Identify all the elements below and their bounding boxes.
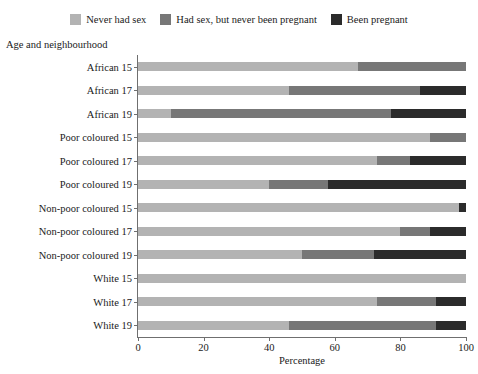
x-axis-tick <box>138 337 139 341</box>
bar-segment <box>289 321 437 330</box>
stacked-bar <box>138 250 466 259</box>
bar-segment <box>138 86 289 95</box>
stacked-bar <box>138 274 466 283</box>
x-axis-tick-label: 100 <box>458 342 474 353</box>
y-axis-tick-label: Non-poor coloured 17 <box>39 226 132 237</box>
legend-label: Had sex, but never been pregnant <box>176 14 317 25</box>
bar-row: Poor coloured 15 <box>138 126 466 150</box>
x-axis-tick <box>400 337 401 341</box>
bar-segment <box>269 180 328 189</box>
bar-segment <box>374 250 466 259</box>
y-axis-tick-label: Non-poor coloured 19 <box>39 249 132 260</box>
legend-label: Been pregnant <box>347 14 408 25</box>
bar-segment <box>377 297 436 306</box>
x-axis-tick <box>335 337 336 341</box>
bar-row: Non-poor coloured 19 <box>138 243 466 267</box>
stacked-bar <box>138 321 466 330</box>
y-axis-tick-label: Poor coloured 15 <box>60 132 132 143</box>
x-axis-tick <box>204 337 205 341</box>
bar-segment <box>138 156 377 165</box>
bar-segment <box>138 297 377 306</box>
bar-segment <box>138 227 400 236</box>
stacked-bar <box>138 297 466 306</box>
legend-item: Never had sex <box>70 14 146 25</box>
stacked-bar <box>138 62 466 71</box>
x-axis-tick <box>269 337 270 341</box>
bar-segment <box>430 133 466 142</box>
x-axis-title: Percentage <box>138 355 466 366</box>
x-axis-tick-label: 60 <box>330 342 341 353</box>
stacked-bar <box>138 133 466 142</box>
bar-segment <box>430 227 466 236</box>
y-axis-tick-label: White 19 <box>93 320 132 331</box>
x-axis-tick-label: 40 <box>264 342 275 353</box>
bar-row: White 15 <box>138 267 466 291</box>
bar-segment <box>138 321 289 330</box>
stacked-bar <box>138 109 466 118</box>
bar-segment <box>410 156 466 165</box>
y-axis-tick-label: Non-poor coloured 15 <box>39 202 132 213</box>
legend-swatch-icon <box>331 14 342 25</box>
bar-segment <box>289 86 420 95</box>
stacked-bar <box>138 156 466 165</box>
bar-segment <box>377 156 410 165</box>
y-axis-tick-label: African 19 <box>87 108 132 119</box>
legend-swatch-icon <box>160 14 171 25</box>
bar-row: African 19 <box>138 102 466 126</box>
bar-segment <box>138 180 269 189</box>
bar-rows: African 15African 17African 19Poor colou… <box>138 55 466 337</box>
bar-segment <box>138 109 171 118</box>
y-axis-tick-label: White 15 <box>93 273 132 284</box>
legend-item: Had sex, but never been pregnant <box>160 14 317 25</box>
bar-segment <box>302 250 374 259</box>
bar-row: White 19 <box>138 314 466 338</box>
bar-segment <box>138 62 358 71</box>
bar-segment <box>328 180 466 189</box>
plot-area: African 15African 17African 19Poor colou… <box>138 55 466 337</box>
y-axis-tick-label: Poor coloured 19 <box>60 179 132 190</box>
bar-segment <box>400 227 430 236</box>
bar-row: African 17 <box>138 79 466 103</box>
y-axis-title: Age and neighbourhood <box>6 39 107 50</box>
chart-legend: Never had sexHad sex, but never been pre… <box>0 14 478 25</box>
x-axis-tick-label: 20 <box>198 342 209 353</box>
x-axis-tick <box>466 337 467 341</box>
bar-segment <box>138 274 466 283</box>
bar-segment <box>459 203 466 212</box>
bar-segment <box>436 321 466 330</box>
bar-row: Non-poor coloured 15 <box>138 196 466 220</box>
y-axis-tick-label: African 17 <box>87 85 132 96</box>
y-axis-tick-label: African 15 <box>87 61 132 72</box>
bar-row: Poor coloured 17 <box>138 149 466 173</box>
bar-row: Poor coloured 19 <box>138 173 466 197</box>
legend-label: Never had sex <box>86 14 146 25</box>
x-axis-tick-label: 80 <box>395 342 406 353</box>
x-axis-tick-label: 0 <box>135 342 140 353</box>
bar-segment <box>138 203 459 212</box>
bar-segment <box>436 297 466 306</box>
stacked-bar-chart: Never had sexHad sex, but never been pre… <box>0 0 478 374</box>
bar-segment <box>420 86 466 95</box>
legend-item: Been pregnant <box>331 14 408 25</box>
bar-segment <box>138 133 430 142</box>
bar-row: Non-poor coloured 17 <box>138 220 466 244</box>
bar-segment <box>138 250 302 259</box>
y-axis-tick-label: Poor coloured 17 <box>60 155 132 166</box>
bar-segment <box>358 62 466 71</box>
stacked-bar <box>138 203 466 212</box>
bar-row: White 17 <box>138 290 466 314</box>
stacked-bar <box>138 86 466 95</box>
bar-row: African 15 <box>138 55 466 79</box>
stacked-bar <box>138 227 466 236</box>
bar-segment <box>171 109 391 118</box>
y-axis-tick-label: White 17 <box>93 296 132 307</box>
legend-swatch-icon <box>70 14 81 25</box>
bar-segment <box>391 109 466 118</box>
stacked-bar <box>138 180 466 189</box>
